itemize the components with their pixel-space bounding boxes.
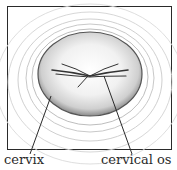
cervix-diagram: cervix cervical os: [0, 0, 177, 170]
label-cervix: cervix: [4, 153, 44, 166]
cervix-illustration: [0, 0, 177, 170]
cervix-body: [38, 32, 142, 116]
label-cervical-os: cervical os: [101, 153, 172, 166]
